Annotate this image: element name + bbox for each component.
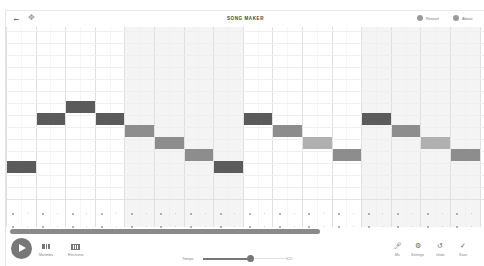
percussion-cell[interactable] — [294, 213, 295, 214]
settings-button[interactable]: ⚙ Settings — [411, 242, 424, 257]
percussion-cell[interactable] — [72, 226, 74, 228]
note-cell[interactable] — [66, 101, 95, 113]
note-cell[interactable] — [303, 137, 332, 149]
play-button[interactable] — [11, 238, 32, 259]
undo-button[interactable]: ↺ Undo — [436, 242, 445, 257]
note-cell[interactable] — [155, 137, 184, 149]
percussion-cell[interactable] — [101, 226, 103, 228]
about-label: About — [462, 16, 472, 21]
percussion-cell[interactable] — [220, 213, 222, 215]
note-cell[interactable] — [185, 149, 214, 161]
note-grid[interactable] — [6, 27, 484, 227]
percussion-cell[interactable] — [116, 226, 117, 227]
note-cell[interactable] — [244, 113, 273, 125]
percussion-cell[interactable] — [101, 213, 103, 215]
percussion-cell[interactable] — [12, 213, 14, 215]
grid-line — [6, 139, 484, 140]
restart-button[interactable]: Restart — [417, 15, 439, 21]
undo-label: Undo — [436, 253, 445, 257]
tempo-value: 120 — [286, 257, 292, 261]
percussion-cell[interactable] — [27, 213, 28, 214]
percussion-cell[interactable] — [146, 213, 147, 214]
note-cell[interactable] — [37, 113, 66, 125]
grid-line — [6, 151, 484, 152]
marimba-icon — [42, 244, 50, 249]
percussion-cell[interactable] — [353, 226, 354, 227]
percussion-cell[interactable] — [264, 226, 265, 227]
percussion-cell[interactable] — [368, 226, 370, 228]
horizontal-scrollbar[interactable] — [10, 229, 320, 234]
percussion-cell[interactable] — [279, 213, 281, 215]
grid-line — [6, 163, 484, 164]
microphone-icon: 🎤︎ — [393, 242, 402, 251]
percussion-cell[interactable] — [427, 226, 429, 228]
percussion-cell[interactable] — [116, 213, 117, 214]
percussion-cell[interactable] — [442, 226, 443, 227]
instrument-label: Marimba — [39, 253, 53, 257]
save-button[interactable]: ✓ Save — [459, 242, 467, 257]
restart-label: Restart — [426, 16, 439, 21]
percussion-cell[interactable] — [412, 226, 413, 227]
percussion-cell[interactable] — [249, 226, 251, 228]
gear-icon: ⚙ — [415, 242, 421, 251]
percussion-cell[interactable] — [86, 226, 87, 227]
percussion-cell[interactable] — [72, 213, 74, 215]
note-cell[interactable] — [125, 125, 154, 137]
percussion-cell[interactable] — [27, 226, 28, 227]
percussion-cell[interactable] — [190, 226, 192, 228]
percussion-cell[interactable] — [249, 213, 251, 215]
percussion-cell[interactable] — [264, 213, 265, 214]
about-icon — [453, 15, 459, 21]
percussion-cell[interactable] — [294, 226, 295, 227]
percussion-cell[interactable] — [412, 213, 413, 214]
percussion-cell[interactable] — [190, 213, 192, 215]
settings-label: Settings — [411, 253, 424, 257]
percussion-cell[interactable] — [397, 226, 399, 228]
percussion-cell[interactable] — [427, 213, 429, 215]
mic-button[interactable]: 🎤︎ Mic — [393, 242, 402, 257]
note-cell[interactable] — [96, 113, 125, 125]
percussion-button[interactable]: Electronic — [68, 242, 84, 257]
note-cell[interactable] — [273, 125, 302, 137]
note-cell[interactable] — [362, 113, 391, 125]
tempo-slider-thumb[interactable] — [247, 255, 254, 262]
percussion-cell[interactable] — [368, 213, 370, 215]
percussion-cell[interactable] — [323, 213, 324, 214]
percussion-cell[interactable] — [353, 213, 354, 214]
percussion-cell[interactable] — [131, 213, 133, 215]
percussion-cell[interactable] — [86, 213, 87, 214]
percussion-cell[interactable] — [12, 226, 14, 228]
percussion-cell[interactable] — [57, 226, 58, 227]
grid-line — [6, 79, 484, 80]
percussion-cell[interactable] — [131, 226, 133, 228]
percussion-cell[interactable] — [205, 213, 206, 214]
footer-toolbar: Marimba Electronic Tempo 120 🎤︎ Mic ⚙ Se… — [6, 236, 484, 266]
grid-line — [6, 31, 484, 32]
note-cell[interactable] — [7, 161, 36, 173]
grid-line — [6, 91, 484, 92]
note-cell[interactable] — [214, 161, 243, 173]
percussion-cell[interactable] — [205, 226, 206, 227]
percussion-cell[interactable] — [308, 213, 310, 215]
percussion-cell[interactable] — [338, 213, 340, 215]
undo-icon: ↺ — [437, 242, 443, 251]
percussion-cell[interactable] — [42, 226, 44, 228]
tempo-slider[interactable] — [203, 258, 288, 259]
note-cell[interactable] — [421, 137, 450, 149]
percussion-cell[interactable] — [146, 226, 147, 227]
percussion-cell[interactable] — [338, 226, 340, 228]
percussion-cell[interactable] — [42, 213, 44, 215]
instrument-button[interactable]: Marimba — [39, 242, 53, 257]
checkmark-icon: ✓ — [460, 242, 466, 251]
percussion-cell[interactable] — [57, 213, 58, 214]
restart-icon — [417, 15, 423, 21]
about-button[interactable]: About — [453, 15, 472, 21]
note-cell[interactable] — [451, 149, 480, 161]
percussion-cell[interactable] — [279, 226, 281, 228]
percussion-cell[interactable] — [323, 226, 324, 227]
note-cell[interactable] — [392, 125, 421, 137]
note-cell[interactable] — [333, 149, 362, 161]
percussion-cell[interactable] — [442, 213, 443, 214]
percussion-cell[interactable] — [308, 226, 310, 228]
percussion-cell[interactable] — [220, 226, 222, 228]
